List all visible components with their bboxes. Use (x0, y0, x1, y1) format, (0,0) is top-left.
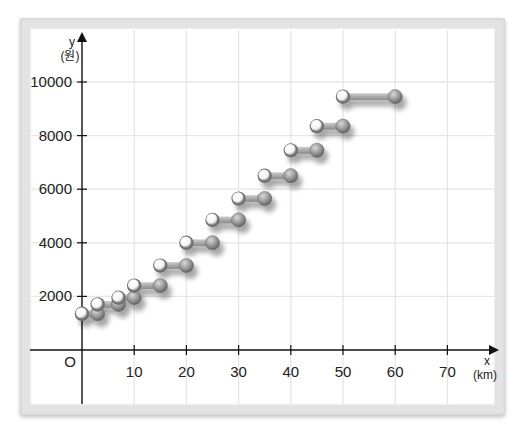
closed-point (336, 119, 350, 133)
step-segment (153, 258, 193, 272)
y-tick-label: 2000 (39, 287, 72, 304)
step-segment (258, 169, 298, 183)
step-bar (343, 93, 395, 100)
x-tick-label: 70 (439, 363, 456, 380)
step-segment (310, 119, 351, 133)
step-chart: 10203040506070200040006000800010000Oy(원)… (0, 0, 526, 434)
open-point (180, 236, 191, 247)
closed-point (310, 143, 324, 157)
open-point (91, 298, 102, 309)
x-tick-label: 20 (178, 363, 195, 380)
closed-point (284, 169, 298, 183)
open-point (285, 144, 296, 155)
open-point (232, 192, 243, 203)
step-segment (205, 213, 246, 227)
closed-point (231, 213, 245, 227)
x-tick-label: 60 (387, 363, 404, 380)
grid-lines (31, 30, 494, 404)
step-segment (231, 191, 271, 205)
axes (30, 34, 497, 404)
y-axis-unit: (원) (61, 49, 80, 63)
y-tick-label: 6000 (39, 180, 72, 197)
open-point (311, 120, 322, 131)
x-tick-label: 50 (335, 363, 352, 380)
open-point (154, 259, 165, 270)
y-axis-label: y (69, 35, 75, 49)
step-segment (284, 143, 325, 157)
open-point (337, 90, 348, 101)
x-tick-label: 10 (126, 363, 143, 380)
open-point (112, 291, 123, 302)
closed-point (205, 236, 219, 250)
x-tick-label: 30 (230, 363, 247, 380)
open-point (76, 307, 87, 318)
step-segment (127, 278, 168, 292)
axis-labels: 10203040506070200040006000800010000Oy(원)… (30, 35, 497, 382)
x-axis-unit: (km) (473, 368, 497, 382)
closed-point (153, 278, 167, 292)
y-tick-label: 10000 (30, 73, 72, 90)
y-tick-label: 4000 (39, 234, 72, 251)
step-segment (179, 236, 220, 250)
x-axis-label: x (484, 354, 490, 368)
closed-point (258, 191, 272, 205)
origin-label: O (64, 353, 76, 370)
closed-point (179, 258, 193, 272)
step-segment (336, 90, 403, 104)
open-point (206, 214, 217, 225)
y-tick-label: 8000 (39, 127, 72, 144)
closed-point (388, 90, 402, 104)
x-tick-label: 40 (282, 363, 299, 380)
step-segment (111, 291, 141, 305)
open-point (128, 279, 139, 290)
open-point (259, 169, 270, 180)
